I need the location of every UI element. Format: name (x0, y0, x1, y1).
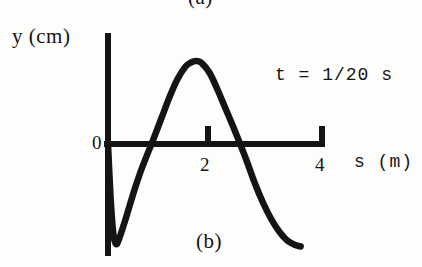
caption-b: (b) (196, 231, 222, 252)
tick-label-origin: 0 (92, 133, 102, 152)
tick-label-2: 2 (200, 155, 210, 174)
wave-figure: (a) y (cm) t = 1/20 s 0 2 4 s (m) (b) (0, 0, 422, 267)
y-axis-label: y (cm) (12, 26, 70, 47)
x-axis-label: s (m) (354, 153, 413, 171)
tick-label-4: 4 (315, 155, 325, 174)
caption-a: (a) (188, 0, 213, 8)
time-annotation: t = 1/20 s (275, 66, 393, 84)
